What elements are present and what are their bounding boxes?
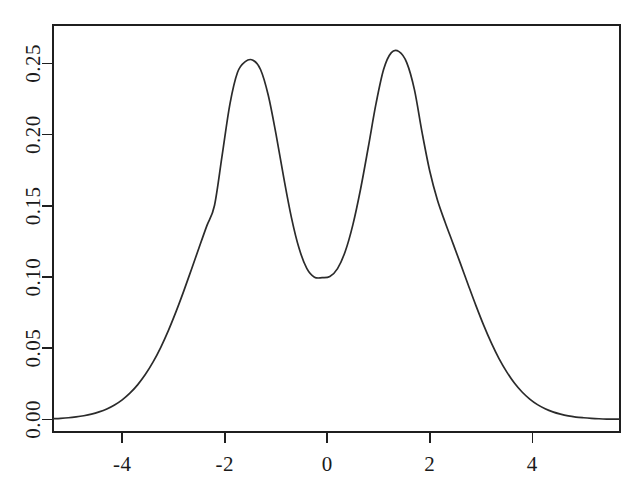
y-tick-label: 0.05 [21,329,45,368]
y-tick-label: 0.10 [21,258,45,297]
x-tick-label: 4 [527,452,538,476]
x-tick-label: 0 [322,452,333,476]
x-tick-label: 2 [424,452,435,476]
density-plot-figure: -4-2024 0.000.050.100.150.200.25 [0,0,633,490]
y-tick-label: 0.15 [21,186,45,225]
plot-background [0,0,633,490]
x-tick-label: -2 [215,452,234,476]
plot-canvas: -4-2024 0.000.050.100.150.200.25 [0,0,633,490]
y-tick-label: 0.00 [21,400,45,439]
y-tick-label: 0.25 [21,44,45,83]
y-tick-label: 0.20 [21,115,45,154]
x-tick-label: -4 [113,452,132,476]
